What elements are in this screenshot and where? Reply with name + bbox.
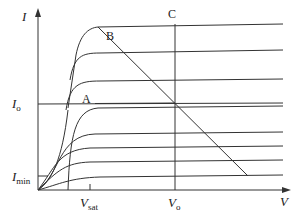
a-line (95, 103, 175, 104)
io-label: Io (12, 97, 21, 113)
load-line (98, 27, 248, 176)
point-a-label: A (82, 93, 91, 105)
y-axis-label: I (22, 10, 26, 23)
vsat-label: Vsat (80, 196, 98, 212)
point-c-label: C (168, 8, 176, 20)
curve-3 (38, 146, 283, 190)
vo-label: Vo (168, 196, 180, 212)
curve-7 (70, 50, 283, 80)
imin-label: Imin (12, 170, 30, 186)
characteristics-diagram (0, 0, 300, 218)
x-axis-arrow-icon (282, 187, 291, 193)
y-axis-arrow-icon (35, 8, 41, 17)
curve-1 (38, 175, 283, 190)
saturation-edge (38, 110, 68, 190)
x-axis-label: V (280, 195, 288, 208)
point-b-label: B (106, 30, 114, 42)
